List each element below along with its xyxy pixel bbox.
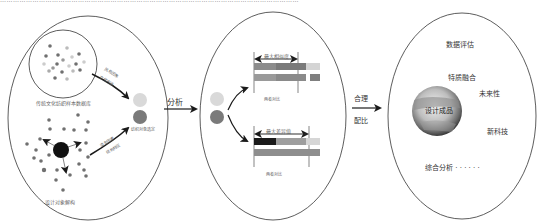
bar-segment <box>276 138 306 145</box>
arrow-to-similarity <box>228 88 247 110</box>
bar-row <box>254 63 320 70</box>
item-futurity: 未来性 <box>479 88 500 98</box>
bar-segment <box>306 138 320 145</box>
bar-row <box>254 74 320 81</box>
design-object-label: 设计对象解构 <box>45 198 75 205</box>
bar-segment <box>276 74 306 81</box>
similarity-caption: 两者对比 <box>264 96 280 102</box>
arrow-to-difference <box>228 115 247 141</box>
compare-dark-circle <box>210 110 224 124</box>
similarity-bars <box>254 63 320 81</box>
item-comprehensive-analysis: 综合分析 · · · · · · <box>425 162 480 172</box>
bar-segment <box>254 138 276 145</box>
bar-segment <box>276 63 306 70</box>
item-data-evaluation: 数据评估 <box>446 39 474 49</box>
bar-segment <box>254 149 320 156</box>
ratio-label-top: 合理 <box>354 93 368 103</box>
ratio-label-bottom: 配比 <box>354 115 368 125</box>
design-object-core <box>53 142 69 158</box>
bar-row <box>254 138 320 145</box>
sample-db-circle <box>29 30 97 98</box>
bar-segment <box>306 63 320 70</box>
compare-light-circle <box>210 92 224 106</box>
analyze-label: 分析 <box>167 96 183 107</box>
target-dark-circle <box>133 110 147 124</box>
similarity-label: 最大相似度 <box>264 52 289 59</box>
sample-db-label: 传统文化纺织样本数据库 <box>36 99 91 106</box>
item-feature-fusion: 特质融合 <box>448 72 476 82</box>
bar-row <box>254 149 320 156</box>
difference-caption: 两者对比 <box>266 171 282 177</box>
bar-segment <box>310 74 320 81</box>
target-light-circle <box>133 93 147 107</box>
bar-segment <box>254 74 276 81</box>
process-diagram: …………………………………………………………………………………………………………… <box>0 0 539 223</box>
item-new-technology: 新科技 <box>487 126 508 136</box>
bar-segment <box>254 63 276 70</box>
target-label: 纺织对象选定 <box>131 126 155 132</box>
difference-label: 最大差异值 <box>266 127 291 134</box>
diagram-graphics <box>0 0 539 223</box>
design-product-label: 设计成品 <box>425 105 453 115</box>
difference-bars <box>254 138 320 156</box>
sample-dots <box>42 44 86 81</box>
